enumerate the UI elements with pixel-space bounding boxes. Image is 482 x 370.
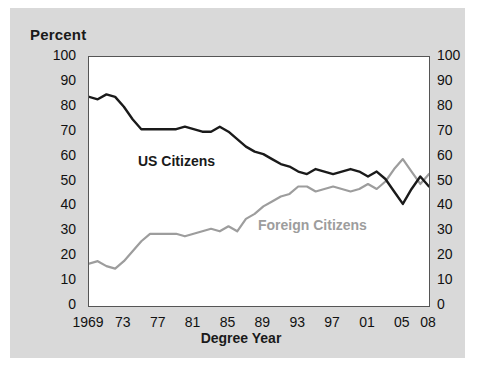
chart-screenshot: Percent 0102030405060708090100 010203040… bbox=[0, 0, 482, 370]
y-axis-left-tick-90: 90 bbox=[36, 72, 76, 88]
y-axis-left-tick-30: 30 bbox=[36, 221, 76, 237]
y-axis-left-tick-100: 100 bbox=[36, 47, 76, 63]
y-axis-right-tick-50: 50 bbox=[437, 172, 477, 188]
y-axis-right-tick-0: 0 bbox=[437, 296, 477, 312]
y-axis-title: Percent bbox=[30, 26, 86, 43]
y-axis-left-tick-60: 60 bbox=[36, 147, 76, 163]
line-foreign-citizens bbox=[89, 159, 429, 269]
y-axis-left-tick-40: 40 bbox=[36, 196, 76, 212]
y-axis-left-tick-80: 80 bbox=[36, 97, 76, 113]
series-label-foreign-citizens: Foreign Citizens bbox=[258, 217, 367, 233]
y-axis-right-tick-60: 60 bbox=[437, 147, 477, 163]
x-axis-tick-2008: 08 bbox=[404, 314, 452, 330]
y-axis-right-tick-30: 30 bbox=[437, 221, 477, 237]
y-axis-right-tick-40: 40 bbox=[437, 196, 477, 212]
y-axis-right-tick-80: 80 bbox=[437, 97, 477, 113]
y-axis-left-tick-10: 10 bbox=[36, 271, 76, 287]
series-canvas bbox=[89, 57, 429, 306]
y-axis-left-tick-20: 20 bbox=[36, 246, 76, 262]
plot-area bbox=[88, 56, 430, 307]
y-axis-right-tick-20: 20 bbox=[437, 246, 477, 262]
y-axis-right-tick-10: 10 bbox=[437, 271, 477, 287]
y-axis-left-tick-70: 70 bbox=[36, 122, 76, 138]
y-axis-left-tick-50: 50 bbox=[36, 172, 76, 188]
figure-plate: Percent 0102030405060708090100 010203040… bbox=[10, 8, 465, 358]
x-axis-title: Degree Year bbox=[0, 330, 482, 346]
y-axis-left-tick-0: 0 bbox=[36, 296, 76, 312]
y-axis-right-tick-100: 100 bbox=[437, 47, 477, 63]
y-axis-right-tick-70: 70 bbox=[437, 122, 477, 138]
y-axis-right-tick-90: 90 bbox=[437, 72, 477, 88]
series-label-us-citizens: US Citizens bbox=[138, 153, 215, 169]
